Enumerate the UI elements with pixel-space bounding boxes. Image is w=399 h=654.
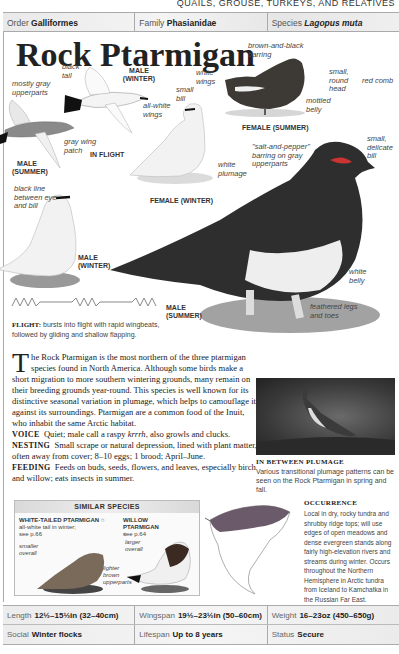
family-cell: Family Phasianidae xyxy=(135,13,267,31)
stat-social: SocialWinter flocks xyxy=(3,625,135,644)
caption-male-winter-flight: MALE (WINTER) xyxy=(122,67,156,83)
stats-table: Length12½–15½in (32–40cm) Wingspan19½–23… xyxy=(3,605,399,645)
stat-label: Wingspan xyxy=(139,611,175,620)
label-small-bill: small bill xyxy=(176,86,196,103)
label-salt-pepper: "salt-and-pepper" barring on gray upperp… xyxy=(252,143,314,169)
stat-status: StatusSecure xyxy=(268,625,399,644)
willow-ptarmigan-illustration xyxy=(125,539,197,595)
stat-length: Length12½–15½in (32–40cm) xyxy=(3,606,135,624)
label-red-comb: red comb xyxy=(362,77,398,86)
stat-label: Weight xyxy=(272,611,297,620)
stat-value: Up to 8 years xyxy=(173,630,223,639)
voice-label: VOICE xyxy=(12,430,40,439)
stat-value: Secure xyxy=(297,630,324,639)
label-brown-black-barring: brown-and-black barring xyxy=(248,42,308,59)
voice-text: Quiet; male call a raspy xyxy=(44,429,128,439)
flight-label: FLIGHT: xyxy=(12,321,41,329)
stat-value: 16–23oz (450–650g) xyxy=(299,611,374,620)
stats-row: SocialWinter flocks LifespanUp to 8 year… xyxy=(3,625,399,644)
inset-caption: Various transitional plumage patterns ca… xyxy=(256,467,396,494)
intro-text: he Rock Ptarmigan is the most northern o… xyxy=(12,352,256,428)
label-mostly-gray: mostly gray upperparts xyxy=(12,80,52,97)
similar-species-heading: SIMILAR SPECIES xyxy=(15,501,199,513)
in-between-plumage-photo xyxy=(256,378,395,455)
inset-title: IN BETWEEN PLUMAGE xyxy=(256,458,344,466)
label-small-delicate-bill: small, delicate bill xyxy=(367,135,399,161)
label-feathered-legs: feathered legs and toes xyxy=(310,303,360,320)
stat-label: Length xyxy=(7,611,31,620)
family-label: Family xyxy=(139,18,164,28)
species-description: The Rock Ptarmigan is the most northern … xyxy=(12,352,258,484)
ptarmigan-photo-icon xyxy=(256,378,395,455)
stat-label: Lifespan xyxy=(139,630,169,639)
taxonomy-bar: Order Galliformes Family Phasianidae Spe… xyxy=(3,12,399,32)
label-white-plumage: white plumage xyxy=(218,161,248,178)
voice-call: krrrh xyxy=(128,429,146,439)
similar-species-note: all-white tail in winter; see p.66 xyxy=(19,524,79,538)
flight-description: FLIGHT: bursts into flight with rapid wi… xyxy=(12,320,172,339)
similar-species-name: WHITE-TAILED PTARMIGAN ○ xyxy=(19,517,104,524)
order-value: Galliformes xyxy=(31,18,78,28)
stats-row: Length12½–15½in (32–40cm) Wingspan19½–23… xyxy=(3,606,399,625)
stat-value: 12½–15½in (32–40cm) xyxy=(34,611,118,620)
voice-text-end: , also growls and clucks. xyxy=(146,429,231,439)
order-label: Order xyxy=(7,18,29,28)
order-cell: Order Galliformes xyxy=(3,13,135,31)
stat-label: Social xyxy=(7,630,29,639)
label-black-line: black line between eye and bill xyxy=(14,185,58,211)
species-value: Lagopus muta xyxy=(304,18,362,28)
drop-cap: T xyxy=(12,352,29,374)
female-summer-illustration xyxy=(220,55,315,120)
similar-species-box: SIMILAR SPECIES WHITE-TAILED PTARMIGAN ○… xyxy=(14,500,200,596)
feeding-label: FEEDING xyxy=(12,463,51,472)
range-map xyxy=(200,500,305,596)
caption-female-winter: FEMALE (WINTER) xyxy=(150,197,213,205)
stat-value: Winter flocks xyxy=(32,630,82,639)
caption-female-summer: FEMALE (SUMMER) xyxy=(242,124,309,132)
stat-wingspan: Wingspan19½–23½in (50–60cm) xyxy=(135,606,267,624)
caption-male-winter: MALE (WINTER) xyxy=(78,254,118,270)
species-label: Species xyxy=(272,18,302,28)
stat-weight: Weight16–23oz (450–650g) xyxy=(268,606,399,624)
label-white-wings: white wings xyxy=(196,69,224,86)
label-small-round-head: small, round head xyxy=(329,68,357,94)
nesting-label: NESTING xyxy=(12,441,50,450)
stat-lifespan: LifespanUp to 8 years xyxy=(135,625,267,644)
stat-label: Status xyxy=(272,630,295,639)
label-all-white-wings: all-white wings xyxy=(143,102,173,119)
label-mottled-belly: mottled belly xyxy=(306,97,336,114)
white-tailed-ptarmigan-illustration xyxy=(35,549,110,595)
running-head: QUAILS, GROUSE, TURKEYS, AND RELATIVES xyxy=(177,0,395,12)
similar-species-note: see p.64 xyxy=(123,531,146,538)
label-white-belly: white belly xyxy=(349,268,381,285)
caption-in-flight: IN FLIGHT xyxy=(90,151,124,159)
stat-value: 19½–23½in (50–60cm) xyxy=(178,611,262,620)
flight-pattern-icon xyxy=(10,292,210,312)
species-cell: Species Lagopus muta xyxy=(268,13,399,31)
occurrence-text: Local in dry, rocky tundra and shrubby r… xyxy=(304,509,398,604)
family-value: Phasianidae xyxy=(167,18,217,28)
caption-male-summer-flight: MALE (SUMMER) xyxy=(12,160,42,176)
label-black-tail: black tail xyxy=(62,63,90,80)
occurrence-title: OCCURRENCE xyxy=(304,499,357,507)
